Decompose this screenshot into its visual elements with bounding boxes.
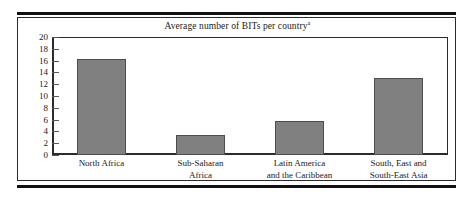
x-axis-category-label: Latin Americaand the Caribbean [250, 158, 349, 181]
figure-top-rule [17, 12, 456, 15]
x-axis-category-label: South, East andSouth-East Asia [349, 158, 448, 181]
y-tick-mark [52, 155, 59, 156]
x-axis-category-label-line: North Africa [52, 158, 151, 170]
y-tick-label: 20 [26, 33, 48, 42]
bar [176, 135, 225, 155]
x-axis-category-label-line: and the Caribbean [250, 170, 349, 182]
y-tick-mark [52, 143, 59, 144]
x-axis-category-label-line: South-East Asia [349, 170, 448, 182]
y-tick-label: 0 [26, 151, 48, 160]
x-axis-category-label: North Africa [52, 158, 151, 170]
chart-title-footnote-marker: a [308, 19, 311, 26]
y-tick-mark [52, 108, 59, 109]
x-axis-category-label: Sub-SaharanAfrica [151, 158, 250, 181]
y-tick-label: 18 [26, 44, 48, 53]
y-tick-mark [52, 61, 59, 62]
y-tick-label: 14 [26, 68, 48, 77]
figure-bottom-rule [17, 185, 456, 188]
y-tick-mark [52, 72, 59, 73]
y-tick-label: 8 [26, 103, 48, 112]
x-axis-category-label-line: Sub-Saharan [151, 158, 250, 170]
y-tick-mark [52, 84, 59, 85]
y-tick-label: 12 [26, 80, 48, 89]
plot-area: 02468101214161820 [52, 37, 448, 155]
y-tick-mark [52, 37, 59, 38]
chart-title: Average number of BITs per countrya [18, 20, 457, 32]
bar [77, 59, 126, 155]
y-tick-label: 6 [26, 115, 48, 124]
chart-title-text: Average number of BITs per country [164, 21, 307, 31]
y-tick-label: 2 [26, 139, 48, 148]
bar [275, 121, 324, 155]
figure-container: Average number of BITs per countrya 0246… [0, 0, 474, 199]
x-axis-category-label-line: Africa [151, 170, 250, 182]
y-tick-mark [52, 120, 59, 121]
y-tick-label: 4 [26, 127, 48, 136]
y-tick-mark [52, 49, 59, 50]
y-tick-mark [52, 96, 59, 97]
y-tick-mark [52, 131, 59, 132]
x-axis-category-label-line: Latin America [250, 158, 349, 170]
bar [374, 78, 423, 155]
y-tick-label: 16 [26, 56, 48, 65]
x-axis-category-label-line: South, East and [349, 158, 448, 170]
y-tick-label: 10 [26, 92, 48, 101]
x-axis-category-labels: North AfricaSub-SaharanAfricaLatin Ameri… [52, 158, 448, 182]
